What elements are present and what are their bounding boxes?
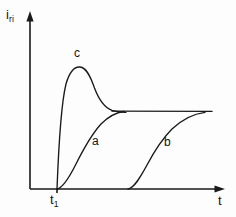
curve-label-a: a bbox=[92, 135, 99, 147]
curve-a-path bbox=[57, 112, 124, 190]
figure-container: iri t t1 c a b bbox=[0, 0, 236, 217]
plot-canvas bbox=[0, 0, 236, 217]
y-axis-arrowhead bbox=[26, 11, 33, 22]
t1-label-subscript: 1 bbox=[54, 199, 59, 209]
curve-label-b: b bbox=[164, 136, 171, 148]
x-axis-label: t bbox=[218, 194, 222, 207]
x-axis-arrowhead bbox=[215, 185, 226, 192]
curve-b-path bbox=[128, 112, 205, 189]
y-axis-label: iri bbox=[6, 8, 14, 21]
curve-label-c: c bbox=[74, 47, 80, 59]
x-axis-tick-label-t1: t1 bbox=[50, 193, 59, 206]
y-axis-label-subscript: ri bbox=[9, 14, 14, 24]
curve-c-path bbox=[57, 67, 126, 189]
